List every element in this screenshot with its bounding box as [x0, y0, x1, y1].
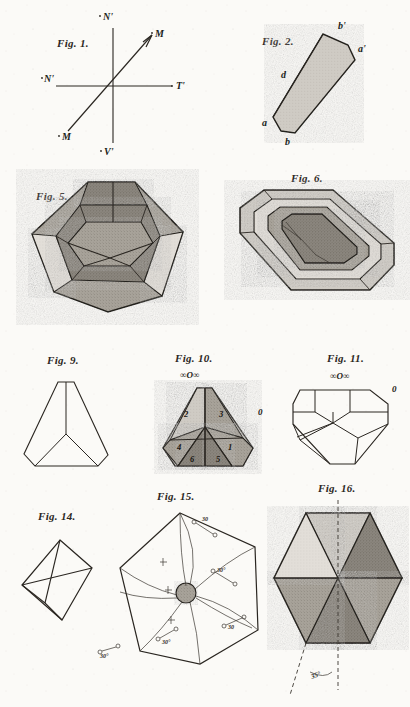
fig15-etch-annotation-top: 30: [201, 516, 208, 522]
fig2-face-label-a: a: [262, 117, 267, 128]
crystallography-plate: Fig. 1. N' T' N' V' M M Fig. 2. b' a' d …: [0, 0, 410, 707]
fig15-etch-annotation-bottom: 30°: [161, 639, 171, 645]
fig1-dot-left: [41, 77, 43, 79]
fig2-face-label-b-prime: b': [338, 20, 346, 31]
fig10-sector-2: 2: [183, 409, 189, 419]
fig10-notation-right: 0: [258, 407, 263, 417]
fig10-sector-3: 3: [218, 409, 224, 419]
fig1-axis-label-upper-right: M: [154, 28, 165, 39]
fig1-dot-m-lower: [58, 135, 60, 137]
fig1-axis-label-right: T': [176, 80, 185, 91]
fig9-caption: Fig. 9.: [46, 354, 79, 366]
fig11-notation-top: ∞O∞: [330, 371, 349, 381]
fig15-etch-annotation-lower-right: 30: [227, 624, 234, 630]
fig15-caption: Fig. 15.: [156, 490, 195, 502]
fig11-caption: Fig. 11.: [326, 352, 364, 364]
fig14-caption: Fig. 14.: [37, 510, 76, 522]
fig2-caption: Fig. 2.: [261, 35, 294, 47]
fig1-axis-label-bottom: V': [104, 146, 114, 157]
fig6-caption: Fig. 6.: [290, 172, 323, 184]
fig1-dot-bottom: [100, 150, 102, 152]
fig1-axis-label-lower-left: M: [61, 131, 72, 142]
fig10-caption: Fig. 10.: [174, 352, 213, 364]
fig1-caption: Fig. 1.: [56, 37, 89, 49]
fig16-caption: Fig. 16.: [317, 482, 356, 494]
fig2-face-label-b: b: [285, 136, 290, 147]
fig1-dot-top: [99, 15, 101, 17]
fig10-sector-1: 1: [228, 442, 232, 452]
fig5-caption: Fig. 5.: [35, 190, 68, 202]
fig10-notation-top: ∞O∞: [180, 370, 199, 380]
fig11-notation-right: 0: [392, 384, 397, 394]
fig15-etch-annotation-left: 30°: [99, 653, 109, 659]
fig10-sector-4: 4: [176, 442, 181, 452]
fig2-face-label-a-prime: a': [358, 43, 366, 54]
fig1-dot-right: [171, 85, 173, 87]
fig1-axis-label-left: N': [43, 73, 54, 84]
fig15-etch-annotation-right: 30°: [216, 567, 226, 573]
fig1-dot-m-upper: [151, 32, 153, 34]
fig1-axis-label-top: N': [102, 11, 113, 22]
